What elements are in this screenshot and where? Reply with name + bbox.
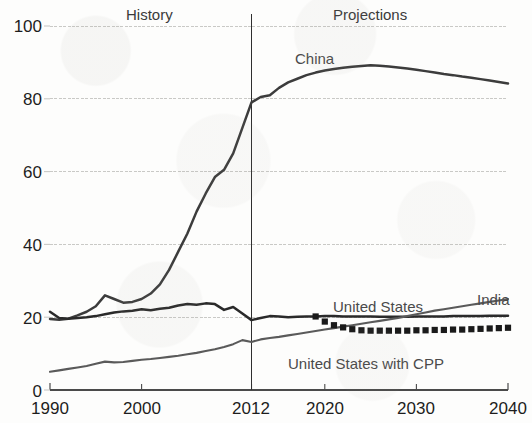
x-tick-2000: 2000	[110, 400, 174, 417]
cpp-marker	[477, 326, 483, 332]
cpp-marker	[487, 325, 493, 331]
cpp-marker	[313, 313, 319, 319]
series-label-china: China	[295, 51, 334, 66]
cpp-marker	[432, 327, 438, 333]
x-tick-2040: 2040	[476, 400, 532, 417]
x-tick-2020: 2020	[293, 400, 357, 417]
cpp-marker	[322, 318, 328, 324]
cpp-marker	[395, 328, 401, 334]
cpp-marker	[349, 326, 355, 332]
cpp-marker	[377, 328, 383, 334]
cpp-marker	[505, 325, 511, 331]
axes-group	[44, 26, 508, 390]
y-tick-20: 20	[0, 310, 42, 327]
y-tick-80: 80	[0, 91, 42, 108]
cpp-marker	[331, 322, 337, 328]
x-tick-2030: 2030	[384, 400, 448, 417]
line-chart-plot	[0, 0, 532, 423]
cpp-marker	[422, 327, 428, 333]
cpp-marker	[386, 328, 392, 334]
cpp-marker	[368, 328, 374, 334]
cpp-marker	[358, 327, 364, 333]
cpp-marker	[441, 327, 447, 333]
y-tick-60: 60	[0, 164, 42, 181]
series-label-united-states: United States	[333, 299, 423, 314]
series-group	[50, 65, 511, 371]
cpp-marker	[496, 325, 502, 331]
cpp-marker	[468, 326, 474, 332]
history-region-label: History	[126, 7, 173, 22]
cpp-marker	[340, 324, 346, 330]
x-tick-1990: 1990	[18, 400, 82, 417]
y-tick-0: 0	[0, 383, 42, 400]
series-label-us-with-cpp: United States with CPP	[288, 356, 444, 371]
chart-container: 100 80 60 40 20 0 1990 2000 2012 2020 20…	[0, 0, 532, 423]
cpp-marker	[459, 326, 465, 332]
series-label-india: India	[477, 292, 510, 307]
series-line-china	[50, 65, 508, 319]
y-tick-100: 100	[0, 18, 42, 35]
gridlines-group	[50, 26, 508, 317]
cpp-marker	[413, 327, 419, 333]
projections-region-label: Projections	[333, 7, 407, 22]
cpp-marker	[404, 328, 410, 334]
x-tick-2012: 2012	[219, 400, 283, 417]
y-tick-40: 40	[0, 237, 42, 254]
cpp-marker	[450, 326, 456, 332]
